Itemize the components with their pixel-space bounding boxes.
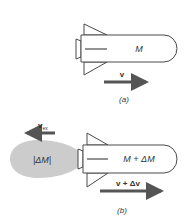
caption-b: (b)	[117, 206, 127, 215]
velocity-label: v	[120, 70, 125, 79]
nozzle	[78, 149, 83, 169]
mass-label: M	[135, 44, 143, 54]
panel-a: M v (a)	[76, 24, 177, 104]
nozzle	[76, 39, 81, 59]
rocket-a	[76, 24, 177, 75]
top-fin	[84, 24, 107, 35]
velocity-label: v + Δv	[116, 179, 140, 188]
top-fin	[87, 133, 108, 145]
panel-b: |ΔM| M + ΔM vex v + Δv (b)	[10, 121, 177, 215]
exhaust-velocity-label: vex	[38, 121, 48, 131]
rocket-diagram: M v (a) |ΔM| M + ΔM vex v + Δv (b)	[0, 0, 190, 220]
bottom-fin	[87, 173, 108, 187]
exhaust-mass-label: |ΔM|	[33, 155, 51, 165]
caption-a: (a)	[119, 95, 129, 104]
mass-label: M + ΔM	[123, 154, 155, 164]
bottom-fin	[84, 62, 107, 75]
